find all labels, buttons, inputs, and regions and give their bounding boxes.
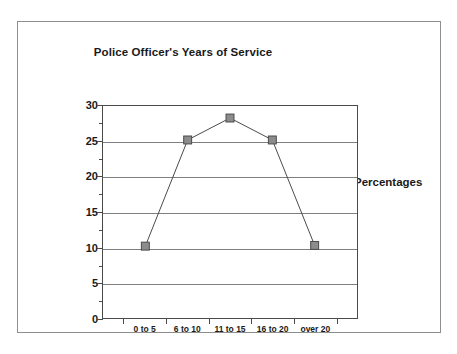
y-axis-label: Percentages xyxy=(354,176,422,188)
data-point-marker xyxy=(184,136,192,144)
data-point-marker xyxy=(226,114,234,122)
x-tick-label: 0 to 5 xyxy=(134,325,156,334)
x-tick xyxy=(166,319,167,324)
plot-area xyxy=(102,105,358,319)
data-series xyxy=(103,106,357,318)
data-point-marker xyxy=(141,242,149,250)
y-axis-tick-labels: 051015202530 xyxy=(70,105,98,319)
x-tick xyxy=(209,319,210,324)
x-tick xyxy=(251,319,252,324)
data-point-marker xyxy=(268,136,276,144)
x-tick-label: over 20 xyxy=(300,325,330,334)
data-point-marker xyxy=(311,241,319,249)
x-tick xyxy=(337,319,338,324)
x-tick-label: 16 to 20 xyxy=(257,325,289,334)
x-tick xyxy=(123,319,124,324)
x-axis-tick-labels: 0 to 56 to 1011 to 1516 to 20over 20 xyxy=(102,325,358,341)
series-line xyxy=(145,118,314,246)
x-tick-label: 11 to 15 xyxy=(214,325,245,334)
figure-frame: Police Officer's Years of Service Percen… xyxy=(17,21,441,333)
x-tick-label: 6 to 10 xyxy=(174,325,201,334)
x-tick xyxy=(294,319,295,324)
chart-title: Police Officer's Years of Service xyxy=(18,46,348,58)
